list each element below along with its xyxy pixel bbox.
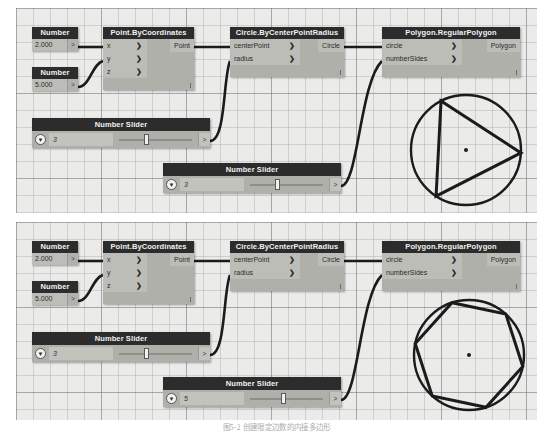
chevron-right-icon: ❯ [136,253,145,266]
output-port-chevron-icon[interactable]: > [198,347,210,360]
input-port-row-y[interactable]: y ❯ [103,52,194,65]
input-port-row-z[interactable]: z ❯ [103,279,194,292]
input-port-row-x[interactable]: x ❯ Point [103,253,194,266]
input-port-label: centerPoint [234,253,269,266]
number-value-row[interactable]: 2.000 > [32,39,78,51]
output-port-chevron-icon[interactable]: > [329,178,341,191]
slider-track[interactable] [250,398,323,400]
node-point-bycoordinates[interactable]: Point.ByCoordinates x ❯ Point y ❯ [103,27,194,90]
input-port-row-numbersides[interactable]: numberSides ❯ [382,52,520,65]
input-port-row-circle[interactable]: circle ❯ Polygon [382,253,520,266]
number-value-row[interactable]: 2.000 > [32,253,78,265]
node-point-bycoordinates[interactable]: Point.ByCoordinates x ❯ Point y ❯ [103,241,194,304]
input-port-label: x [107,39,111,52]
chevron-down-icon[interactable]: ▼ [35,348,46,359]
node-title: Circle.ByCenterPointRadius [230,241,344,253]
slider-body[interactable]: ▼ 3 > [32,131,210,148]
node-number-slider-radius[interactable]: Number Slider ▼ 3 > [32,332,210,362]
expand-toggle[interactable]: ▼ [32,131,49,148]
node-title: Number [32,27,78,39]
node-title: Number Slider [163,377,341,390]
node-number-slider-radius[interactable]: Number Slider ▼ 3 > [32,118,210,148]
input-port-row-x[interactable]: x ❯ Point [103,39,194,52]
output-port-polygon[interactable]: Polygon [487,253,520,266]
node-resize-handle[interactable] [230,65,344,77]
slider-track[interactable] [119,353,192,355]
chevron-right-icon: ❯ [289,266,298,279]
node-number-x[interactable]: Number 2.000 > [32,27,78,51]
chevron-down-icon[interactable]: ▼ [166,393,177,404]
slider-value[interactable]: 3 [49,133,113,146]
number-value-row[interactable]: 5.000 > [32,79,78,91]
slider-thumb[interactable] [281,393,286,404]
node-title: Point.ByCoordinates [103,241,194,253]
input-port-row-y[interactable]: y ❯ [103,266,194,279]
slider-value[interactable]: 3 [49,347,113,360]
number-value[interactable]: 5.000 [32,79,67,91]
node-resize-handle[interactable] [230,279,344,291]
input-port-row-circle[interactable]: circle ❯ Polygon [382,39,520,52]
node-number-x[interactable]: Number 2.000 > [32,241,78,265]
expand-toggle[interactable]: ▼ [32,345,49,362]
input-port-row-radius[interactable]: radius ❯ [230,266,344,279]
slider-track[interactable] [250,184,323,186]
input-port-label: circle [386,39,402,52]
chevron-right-icon: ❯ [451,253,460,266]
input-port-row-z[interactable]: z ❯ [103,65,194,78]
node-resize-handle[interactable] [382,279,520,291]
node-resize-handle[interactable] [103,78,194,90]
slider-track-wrap[interactable] [244,176,329,193]
node-resize-handle[interactable] [382,65,520,77]
output-port-circle[interactable]: Circle [318,39,344,52]
slider-thumb[interactable] [144,348,149,359]
output-port-point[interactable]: Point [170,39,194,52]
node-number-y[interactable]: Number 5.000 > [32,67,78,91]
slider-track-wrap[interactable] [113,131,198,148]
node-circle-bycenterpointradius[interactable]: Circle.ByCenterPointRadius centerPoint ❯… [230,27,344,77]
slider-value[interactable]: 3 [180,178,244,191]
slider-value[interactable]: 5 [180,392,244,405]
dynamo-canvas-bottom[interactable]: Number 2.000 > Number 5.000 > Point.ByCo… [16,222,537,420]
output-port-chevron-icon[interactable]: > [67,293,78,305]
input-port-row-numbersides[interactable]: numberSides ❯ [382,266,520,279]
input-port-label: x [107,253,111,266]
input-port-row-radius[interactable]: radius ❯ [230,52,344,65]
input-port-row-centerpoint[interactable]: centerPoint ❯ Circle [230,39,344,52]
node-circle-bycenterpointradius[interactable]: Circle.ByCenterPointRadius centerPoint ❯… [230,241,344,291]
output-port-chevron-icon[interactable]: > [329,392,341,405]
output-port-chevron-icon[interactable]: > [67,39,78,51]
expand-toggle[interactable]: ▼ [163,390,180,407]
node-number-slider-sides[interactable]: Number Slider ▼ 3 > [163,163,341,193]
slider-track[interactable] [119,139,192,141]
node-title: Number [32,281,78,293]
slider-track-wrap[interactable] [113,345,198,362]
chevron-down-icon[interactable]: ▼ [166,179,177,190]
output-port-polygon[interactable]: Polygon [487,39,520,52]
number-value[interactable]: 2.000 [32,253,67,265]
output-port-point[interactable]: Point [170,253,194,266]
node-polygon-regularpolygon[interactable]: Polygon.RegularPolygon circle ❯ Polygon … [382,27,520,77]
dynamo-canvas-top[interactable]: Number 2.000 > Number 5.000 > Point.ByCo… [16,8,537,213]
output-port-chevron-icon[interactable]: > [67,79,78,91]
output-port-chevron-icon[interactable]: > [67,253,78,265]
chevron-right-icon: ❯ [136,279,145,292]
slider-thumb[interactable] [275,179,280,190]
slider-thumb[interactable] [144,134,149,145]
output-port-circle[interactable]: Circle [318,253,344,266]
input-port-row-centerpoint[interactable]: centerPoint ❯ Circle [230,253,344,266]
expand-toggle[interactable]: ▼ [163,176,180,193]
number-value-row[interactable]: 5.000 > [32,293,78,305]
slider-track-wrap[interactable] [244,390,329,407]
chevron-right-icon: ❯ [451,52,460,65]
node-number-slider-sides[interactable]: Number Slider ▼ 5 > [163,377,341,407]
slider-body[interactable]: ▼ 3 > [163,176,341,193]
node-number-y[interactable]: Number 5.000 > [32,281,78,305]
chevron-down-icon[interactable]: ▼ [35,134,46,145]
number-value[interactable]: 5.000 [32,293,67,305]
node-polygon-regularpolygon[interactable]: Polygon.RegularPolygon circle ❯ Polygon … [382,241,520,291]
slider-body[interactable]: ▼ 3 > [32,345,210,362]
output-port-chevron-icon[interactable]: > [198,133,210,146]
slider-body[interactable]: ▼ 5 > [163,390,341,407]
node-resize-handle[interactable] [103,292,194,304]
number-value[interactable]: 2.000 [32,39,67,51]
